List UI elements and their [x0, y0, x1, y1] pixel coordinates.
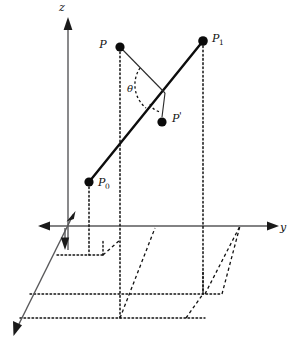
construction-lines [120, 47, 165, 117]
geometry-figure: z y P P 1 P 0 P ' θ [0, 0, 293, 354]
diagram-canvas: z y P P 1 P 0 P ' θ [0, 0, 293, 354]
y-axis-arrow-right [267, 222, 279, 231]
angle-label-theta: θ [127, 83, 133, 94]
z-axis-arrow [64, 17, 73, 30]
floor-rail-f [222, 226, 240, 294]
point-label-P: P [98, 38, 107, 51]
floor-rail-b [120, 228, 155, 318]
floor-rail-c [205, 226, 240, 294]
axes-group [13, 17, 279, 336]
y-axis-label: y [279, 221, 287, 234]
y-axis-arrow-left [38, 222, 50, 231]
floor-rail-a [103, 240, 120, 255]
point-dot-P0 [84, 177, 93, 186]
svg-text:': ' [179, 110, 182, 121]
svg-text:1: 1 [219, 38, 224, 47]
labels-group: z y P P 1 P 0 P ' θ [58, 1, 287, 234]
point-label-P0: P 0 [97, 176, 110, 191]
x-axis-arrow-lower [13, 321, 22, 336]
point-label-Pprime: P ' [171, 110, 182, 125]
point-dot-P [115, 42, 124, 51]
segment-P0-P1 [89, 41, 203, 182]
floor-grid [20, 226, 240, 318]
z-axis-label: z [58, 1, 65, 14]
point-dot-P1 [198, 36, 208, 46]
point-dot-Pprime [157, 117, 166, 126]
svg-text:0: 0 [105, 182, 110, 191]
floor-rail-e [186, 294, 203, 318]
point-label-P1: P 1 [211, 32, 224, 47]
segment-foot-to-Pprime [162, 93, 165, 117]
angle-arc-theta [135, 68, 146, 108]
